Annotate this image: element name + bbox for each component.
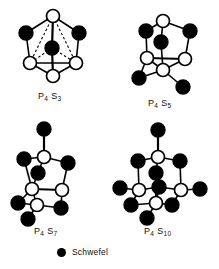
structure-p4s7 <box>0 120 110 230</box>
sulfur-atom <box>176 80 190 94</box>
sulfur-atom <box>37 122 51 136</box>
caption-p4s3: P4S3 <box>38 91 61 102</box>
structure-p4s3 <box>0 0 110 100</box>
p4s3-atoms <box>19 10 86 83</box>
sulfur-legend-icon <box>57 248 66 257</box>
sulfur-atom <box>17 152 31 166</box>
sulfur-atom <box>54 201 68 215</box>
phosphorus-atom <box>157 15 170 28</box>
phosphorus-atom <box>150 197 163 210</box>
sulfur-atom <box>45 41 59 55</box>
caption-p4s3-sub2: 3 <box>58 95 62 102</box>
sulfur-atom <box>193 182 207 196</box>
legend-label: Schwefel <box>72 247 108 257</box>
p4s5-diagram <box>110 0 219 100</box>
sulfur-atom <box>31 166 45 180</box>
phosphorus-atom <box>47 10 60 23</box>
caption-p4s5-sub2: 5 <box>168 102 172 109</box>
sulfur-atom <box>140 211 154 225</box>
caption-p4s10-sub1: 4 <box>150 230 154 237</box>
phosphorus-atom <box>133 184 146 197</box>
sulfur-atom <box>139 24 153 38</box>
sulfur-atom <box>19 26 33 40</box>
sulfur-atom <box>149 166 163 180</box>
p4s10-atoms <box>113 123 207 225</box>
structure-p4s10 <box>110 120 219 230</box>
sulfur-atom <box>124 198 138 212</box>
p4s7-diagram <box>0 120 110 230</box>
sulfur-atom <box>183 24 197 38</box>
phosphorus-atom <box>141 52 154 65</box>
phosphorus-atom <box>56 184 69 197</box>
phosphorus-atom <box>31 199 44 212</box>
caption-p4s5: P4S5 <box>148 98 171 109</box>
phosphorus-atom <box>24 57 37 70</box>
caption-p4s10-sub2: 10 <box>164 230 172 237</box>
phosphorus-atom <box>157 64 170 77</box>
phosphorus-atom <box>47 70 60 83</box>
phosphorus-atom <box>38 151 51 164</box>
phosphorus-atom <box>152 151 165 164</box>
phosphorus-atom <box>26 183 39 196</box>
sulfur-atom <box>151 123 165 137</box>
sulfur-atom <box>131 154 145 168</box>
caption-p4s10: P4S10 <box>144 226 171 237</box>
legend: Schwefel <box>57 247 108 257</box>
p4s10-diagram <box>110 120 219 230</box>
sulfur-atom <box>72 26 86 40</box>
phosphorus-atom <box>70 57 83 70</box>
phosphorus-atom <box>175 184 188 197</box>
p4s5-atoms <box>132 15 197 95</box>
sulfur-atom <box>21 212 35 226</box>
caption-p4s5-sub1: 4 <box>154 102 158 109</box>
phosphorus-atom <box>179 53 192 66</box>
sulfur-atom <box>132 71 146 85</box>
caption-p4s7-sub1: 4 <box>40 230 44 237</box>
sulfur-atom <box>154 35 168 49</box>
caption-p4s3-sub1: 4 <box>44 95 48 102</box>
phosphorus-sulfide-figure: P4S3 <box>0 0 219 269</box>
sulfur-atom <box>113 181 127 195</box>
sulfur-atom <box>61 156 75 170</box>
caption-p4s7-sub2: 7 <box>54 230 58 237</box>
caption-p4s7: P4S7 <box>34 226 57 237</box>
structure-p4s5 <box>110 0 219 100</box>
sulfur-atom <box>173 154 187 168</box>
sulfur-atom <box>11 196 25 210</box>
p4s3-diagram <box>0 0 110 100</box>
sulfur-atom <box>152 180 166 194</box>
sulfur-atom <box>165 198 179 212</box>
